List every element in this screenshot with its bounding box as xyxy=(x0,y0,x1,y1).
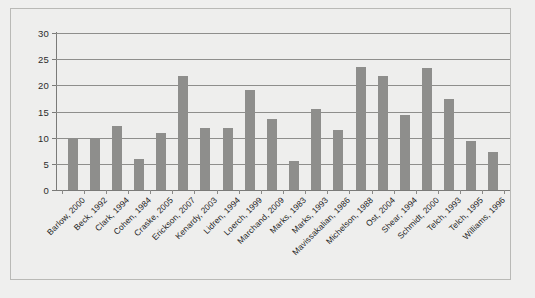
x-axis-tick-mark xyxy=(217,190,218,194)
y-axis-tick-marks xyxy=(11,33,61,190)
x-axis-tick-mark xyxy=(84,190,85,194)
bar xyxy=(488,152,498,190)
bar xyxy=(378,76,388,190)
x-axis-tick-mark xyxy=(416,190,417,194)
gridline xyxy=(56,85,510,86)
x-axis-tick-mark xyxy=(261,190,262,194)
x-axis-tick-mark xyxy=(438,190,439,194)
bar xyxy=(466,141,476,190)
gridline xyxy=(56,138,510,139)
bar xyxy=(422,68,432,190)
bar xyxy=(134,159,144,190)
x-axis-tick-mark xyxy=(305,190,306,194)
x-axis-tick-mark xyxy=(62,190,63,194)
plot-area xyxy=(56,33,510,190)
x-axis-tick-mark xyxy=(128,190,129,194)
x-axis-tick-mark xyxy=(482,190,483,194)
bar xyxy=(444,99,454,190)
x-axis-tick-mark xyxy=(460,190,461,194)
gridline xyxy=(56,112,510,113)
x-axis-tick-mark xyxy=(372,190,373,194)
gridline xyxy=(56,33,510,34)
x-axis-tick-mark xyxy=(150,190,151,194)
x-axis-tick-mark xyxy=(172,190,173,194)
gridline xyxy=(56,59,510,60)
x-axis-tick-mark xyxy=(283,190,284,194)
x-axis-tick-labels: Barlow, 2000Beck, 1992Clark, 1994Cohen, … xyxy=(56,195,516,281)
bar xyxy=(112,126,122,190)
bar xyxy=(156,133,166,190)
bar xyxy=(311,109,321,190)
x-axis-tick-mark xyxy=(106,190,107,194)
bar xyxy=(68,139,78,190)
bar xyxy=(267,119,277,190)
x-axis-tick-mark xyxy=(327,190,328,194)
gridline xyxy=(56,164,510,165)
bar xyxy=(356,67,366,190)
x-axis-tick-mark xyxy=(349,190,350,194)
bar xyxy=(178,76,188,190)
x-axis-tick-mark xyxy=(239,190,240,194)
bar xyxy=(289,161,299,190)
chart-panel: 051015202530 Barlow, 2000Beck, 1992Clark… xyxy=(10,8,511,280)
x-axis-tick-mark xyxy=(194,190,195,194)
x-axis-tick-mark xyxy=(504,190,505,194)
bar xyxy=(333,130,343,190)
x-axis-tick-mark xyxy=(394,190,395,194)
bar xyxy=(90,138,100,190)
bar xyxy=(223,128,233,190)
bar xyxy=(400,115,410,190)
bar xyxy=(245,90,255,190)
bar xyxy=(200,128,210,190)
